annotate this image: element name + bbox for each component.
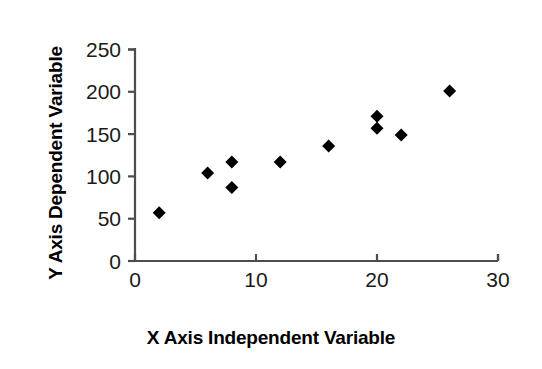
y-tick-label: 0 <box>109 250 121 273</box>
data-point <box>371 122 384 135</box>
data-point <box>201 167 214 180</box>
x-tick-label: 20 <box>365 268 388 291</box>
y-tick-label: 100 <box>86 165 121 188</box>
y-tick-label: 150 <box>86 123 121 146</box>
x-tick-label: 0 <box>129 268 141 291</box>
data-point <box>274 156 287 169</box>
data-point-group <box>153 84 456 219</box>
data-point <box>225 156 238 169</box>
axis-lines <box>135 48 498 261</box>
scatter-plot: 050100150200250 0102030 <box>0 0 542 369</box>
data-point <box>395 128 408 141</box>
data-point <box>322 139 335 152</box>
data-point <box>225 181 238 194</box>
x-tick-label: 30 <box>486 268 509 291</box>
y-tick-label: 200 <box>86 80 121 103</box>
tick-marks <box>128 50 498 262</box>
y-tick-label: 50 <box>98 207 121 230</box>
y-tick-label: 250 <box>86 38 121 61</box>
chart-page: Y Axis Dependent Variable 05010015020025… <box>0 0 542 369</box>
x-tick-label: 10 <box>244 268 267 291</box>
data-point <box>443 84 456 97</box>
data-point <box>153 206 166 219</box>
y-tick-label-group: 050100150200250 <box>86 38 121 273</box>
x-tick-label-group: 0102030 <box>129 268 510 291</box>
data-point <box>371 110 384 123</box>
x-axis-title: X Axis Independent Variable <box>0 327 542 349</box>
